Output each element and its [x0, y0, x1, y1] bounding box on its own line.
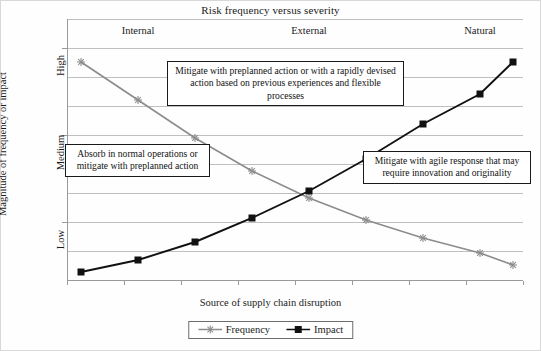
frequency-marker-icon [198, 324, 222, 335]
legend-label-frequency: Frequency [226, 324, 270, 335]
x-tick [124, 281, 125, 285]
chart-legend: Frequency Impact [188, 321, 353, 339]
y-tick-label-medium: Medium [55, 130, 66, 176]
x-tick [466, 281, 467, 285]
x-tick [352, 281, 353, 285]
annotation-box-mitigate-agile: Mitigate with agile response that may re… [363, 151, 531, 184]
x-tick [181, 281, 182, 285]
legend-entry-frequency: Frequency [198, 324, 270, 335]
x-tick [238, 281, 239, 285]
y-axis-title: Magnitude of frequency or impact [0, 41, 8, 247]
x-tick [523, 281, 524, 285]
legend-entry-impact: Impact [286, 324, 343, 335]
annotation-box-mitigate-preplanned: Mitigate with preplanned action or with … [167, 61, 404, 106]
x-tick [67, 281, 68, 285]
x-tick [295, 281, 296, 285]
y-tick-label-high: High [55, 43, 66, 89]
legend-label-impact: Impact [314, 324, 343, 335]
x-tick [409, 281, 410, 285]
chart-frame: Risk frequency versus severity Magnitude… [0, 0, 541, 351]
annotation-box-absorb-normal-operations: Absorb in normal operations or mitigate … [65, 144, 210, 177]
impact-marker-icon [286, 324, 310, 335]
y-tick-label-low: Low [55, 217, 66, 263]
chart-title: Risk frequency versus severity [1, 4, 540, 16]
x-axis-title: Source of supply chain disruption [1, 297, 540, 308]
